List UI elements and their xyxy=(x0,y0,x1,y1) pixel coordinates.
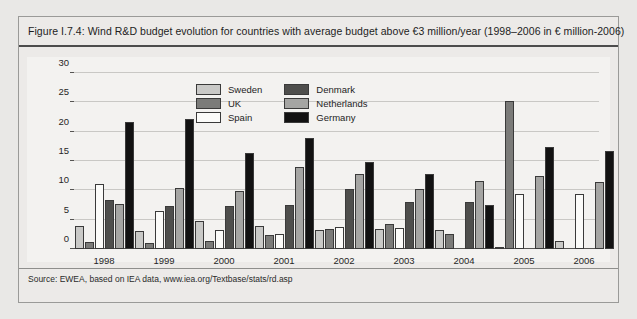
chart-legend: SwedenDenmarkUKNetherlandsSpainGermany xyxy=(196,84,368,123)
legend-swatch-sweden xyxy=(196,84,221,95)
bar-group: 1998 xyxy=(74,73,134,249)
legend-item-germany: Germany xyxy=(284,112,367,123)
title-divider xyxy=(19,45,618,47)
bar-netherlands-2003 xyxy=(415,189,424,249)
bar-spain-2006 xyxy=(575,194,584,249)
legend-label-uk: UK xyxy=(228,98,241,109)
bar-sweden-2006 xyxy=(555,241,564,249)
bar-netherlands-2004 xyxy=(475,181,484,249)
bar-netherlands-2002 xyxy=(355,174,364,249)
bar-netherlands-1998 xyxy=(115,204,124,249)
bar-germany-1998 xyxy=(125,122,134,249)
bar-uk-1998 xyxy=(85,242,94,249)
y-axis-tick-label: 15 xyxy=(58,145,69,156)
legend-label-sweden: Sweden xyxy=(228,84,262,95)
bar-group: 2003 xyxy=(374,73,434,249)
bar-spain-2002 xyxy=(335,227,344,249)
bar-spain-2005 xyxy=(515,194,524,249)
bar-sweden-2000 xyxy=(195,221,204,249)
y-axis-tick-label: 30 xyxy=(58,57,69,68)
x-axis-tick-label: 2000 xyxy=(194,255,254,266)
x-axis-tick-label: 2001 xyxy=(254,255,314,266)
bar-sweden-2005 xyxy=(495,247,504,249)
bar-germany-2002 xyxy=(365,162,374,249)
bar-denmark-2003 xyxy=(405,202,414,249)
bar-denmark-2002 xyxy=(345,189,354,249)
legend-item-netherlands: Netherlands xyxy=(284,98,367,109)
bar-group: 2004 xyxy=(434,73,494,249)
bar-denmark-1998 xyxy=(105,200,114,249)
x-axis-tick-label: 2006 xyxy=(554,255,614,266)
bar-uk-2003 xyxy=(385,224,394,249)
bar-group: 1999 xyxy=(134,73,194,249)
bar-spain-2001 xyxy=(275,234,284,249)
bar-germany-2003 xyxy=(425,174,434,249)
bar-spain-2000 xyxy=(215,230,224,249)
legend-label-denmark: Denmark xyxy=(316,84,355,95)
bar-uk-2004 xyxy=(445,234,454,249)
bar-denmark-2001 xyxy=(285,205,294,249)
y-axis-tick-label: 20 xyxy=(58,115,69,126)
legend-label-germany: Germany xyxy=(316,112,355,123)
bar-spain-1998 xyxy=(95,184,104,249)
figure-title: Figure I.7.4: Wind R&D budget evolution … xyxy=(28,25,612,37)
source-note: Source: EWEA, based on IEA data, www.iea… xyxy=(28,274,293,284)
bar-netherlands-2001 xyxy=(295,167,304,249)
bar-germany-2004 xyxy=(485,205,494,249)
bar-denmark-1999 xyxy=(165,206,174,249)
bar-sweden-2003 xyxy=(375,229,384,249)
x-axis-tick-label: 1999 xyxy=(134,255,194,266)
x-axis-tick-label: 1998 xyxy=(74,255,134,266)
bar-spain-1999 xyxy=(155,211,164,249)
y-axis-tick-label: 10 xyxy=(58,174,69,185)
legend-label-netherlands: Netherlands xyxy=(316,98,367,109)
bar-germany-2000 xyxy=(245,153,254,249)
legend-swatch-netherlands xyxy=(284,98,309,109)
legend-swatch-spain xyxy=(196,112,221,123)
bar-germany-1999 xyxy=(185,119,194,249)
y-axis-tick-label: 0 xyxy=(64,233,69,244)
bar-germany-2005 xyxy=(545,147,554,249)
bar-denmark-2004 xyxy=(465,202,474,249)
bar-uk-2005 xyxy=(505,101,514,249)
legend-swatch-germany xyxy=(284,112,309,123)
bar-denmark-2000 xyxy=(225,206,234,249)
y-axis-tick-label: 5 xyxy=(64,203,69,214)
bar-sweden-2001 xyxy=(255,226,264,249)
bar-uk-1999 xyxy=(145,243,154,249)
legend-swatch-denmark xyxy=(284,84,309,95)
bar-netherlands-2000 xyxy=(235,191,244,249)
source-divider xyxy=(19,268,618,269)
legend-label-spain: Spain xyxy=(228,112,252,123)
bar-uk-2000 xyxy=(205,241,214,249)
legend-item-sweden: Sweden xyxy=(196,84,262,95)
figure-screenshot: Figure I.7.4: Wind R&D budget evolution … xyxy=(0,0,637,319)
legend-item-uk: UK xyxy=(196,98,262,109)
bar-germany-2006 xyxy=(605,151,614,249)
x-axis-tick-label: 2003 xyxy=(374,255,434,266)
bar-sweden-1998 xyxy=(75,226,84,249)
legend-item-denmark: Denmark xyxy=(284,84,367,95)
bar-sweden-2002 xyxy=(315,230,324,249)
legend-item-spain: Spain xyxy=(196,112,262,123)
x-axis-tick-label: 2002 xyxy=(314,255,374,266)
bar-group: 2006 xyxy=(554,73,614,249)
bar-group: 2005 xyxy=(494,73,554,249)
bar-germany-2001 xyxy=(305,138,314,249)
bar-spain-2003 xyxy=(395,228,404,249)
legend-swatch-uk xyxy=(196,98,221,109)
bar-sweden-2004 xyxy=(435,230,444,249)
bar-netherlands-2006 xyxy=(595,182,604,249)
x-axis-tick-label: 2005 xyxy=(494,255,554,266)
bar-sweden-1999 xyxy=(135,231,144,249)
bar-netherlands-2005 xyxy=(535,176,544,249)
y-axis-tick-label: 25 xyxy=(58,86,69,97)
bar-netherlands-1999 xyxy=(175,188,184,249)
bar-uk-2001 xyxy=(265,235,274,249)
bar-uk-2002 xyxy=(325,229,334,249)
x-axis-tick-label: 2004 xyxy=(434,255,494,266)
